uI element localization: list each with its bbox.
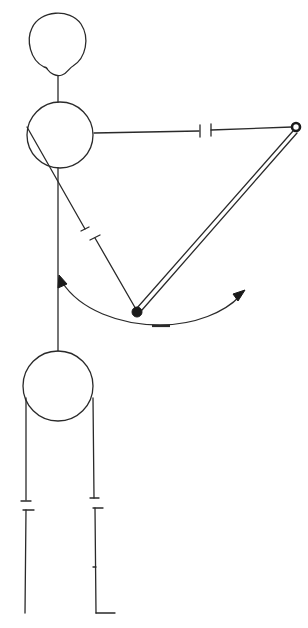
- arc-arrowhead-right-icon: [233, 290, 245, 301]
- left-leg-lower: [25, 510, 26, 613]
- bar-line-a: [137, 131, 293, 308]
- bar-line-b: [142, 133, 297, 310]
- right-leg-lower: [95, 508, 96, 613]
- arc-arrowhead-left-icon: [58, 275, 67, 288]
- linkage-diagram: [0, 0, 308, 628]
- link-gap-tick-upper: [81, 227, 89, 231]
- base-circle: [23, 351, 93, 421]
- head-circle: [29, 13, 86, 75]
- pivot-point-icon: [292, 123, 300, 131]
- link-upper: [27, 127, 85, 229]
- link-lower: [95, 238, 137, 311]
- joint-dot-icon: [132, 307, 142, 317]
- right-leg-upper: [93, 398, 94, 498]
- arm-right-segment: [211, 127, 292, 130]
- rotation-arc: [62, 282, 240, 325]
- body-circle: [27, 102, 93, 168]
- arm-left-segment: [94, 131, 199, 133]
